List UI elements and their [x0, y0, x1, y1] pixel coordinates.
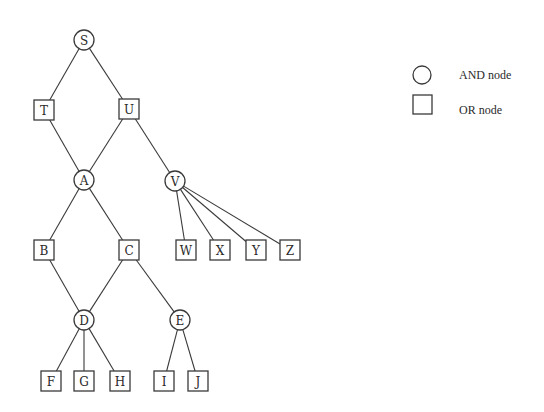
edge-t-a	[50, 120, 79, 171]
node-y-or: Y	[246, 240, 266, 260]
node-c-or: C	[119, 240, 139, 260]
node-d-and: D	[74, 310, 94, 330]
legend-and-circle-icon	[413, 66, 431, 84]
edge-c-d	[89, 260, 122, 312]
node-t-or: T	[34, 100, 54, 120]
nodes-layer: STUAVBCWXYZDEFGHIJ	[34, 30, 300, 391]
node-label: G	[79, 375, 89, 389]
node-label: I	[162, 375, 167, 389]
node-label: T	[40, 104, 48, 118]
legend: AND node OR node	[413, 66, 511, 117]
edge-v-x	[180, 189, 213, 240]
edge-s-t	[50, 49, 79, 100]
node-h-or: H	[110, 371, 130, 391]
edge-c-e	[136, 260, 174, 312]
edge-d-h	[89, 329, 114, 371]
edge-v-z	[184, 186, 280, 244]
node-label: B	[40, 244, 49, 258]
edge-b-d	[50, 260, 79, 311]
node-w-or: W	[176, 240, 196, 260]
node-label: X	[216, 244, 225, 258]
node-label: U	[124, 103, 134, 117]
node-z-or: Z	[280, 240, 300, 260]
legend-or-label: OR node	[459, 103, 502, 117]
edge-a-c	[89, 188, 122, 240]
node-label: J	[194, 375, 201, 389]
edge-v-y	[183, 187, 246, 241]
node-j-or: J	[188, 371, 208, 391]
node-f-or: F	[41, 371, 61, 391]
node-label: Y	[251, 244, 261, 258]
node-label: V	[170, 175, 180, 189]
node-e-and: E	[170, 310, 190, 330]
node-b-or: B	[34, 240, 54, 260]
node-label: A	[79, 174, 89, 188]
node-label: F	[47, 375, 55, 389]
node-i-or: I	[154, 371, 174, 391]
edge-d-f	[56, 329, 79, 371]
node-label: H	[115, 375, 125, 389]
edge-u-a	[89, 119, 122, 172]
edge-v-w	[177, 191, 185, 240]
and-or-tree-diagram: STUAVBCWXYZDEFGHIJ AND node OR node	[0, 0, 544, 412]
legend-or-square-icon	[413, 95, 432, 114]
edge-s-u	[89, 48, 122, 99]
edge-u-v	[135, 119, 169, 173]
node-label: W	[180, 244, 193, 258]
edge-a-b	[50, 189, 79, 240]
node-s-and: S	[74, 30, 94, 50]
edge-e-i	[167, 330, 178, 371]
node-u-or: U	[119, 99, 139, 119]
node-g-or: G	[74, 371, 94, 391]
node-label: D	[79, 314, 89, 328]
node-x-or: X	[210, 240, 230, 260]
node-label: Z	[286, 244, 294, 258]
edge-e-j	[183, 330, 195, 371]
node-v-and: V	[165, 171, 185, 191]
node-label: E	[176, 314, 185, 328]
legend-and-label: AND node	[459, 68, 511, 82]
node-a-and: A	[74, 170, 94, 190]
node-label: C	[124, 244, 133, 258]
node-label: S	[80, 34, 88, 48]
